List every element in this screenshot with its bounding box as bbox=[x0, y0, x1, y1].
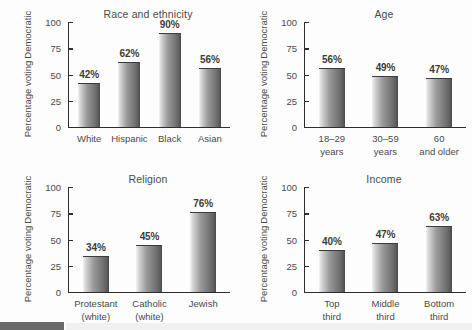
bar[interactable]: 40% bbox=[319, 250, 345, 292]
bar[interactable]: 34% bbox=[83, 256, 109, 292]
bar[interactable]: 45% bbox=[136, 245, 162, 292]
bar-fill bbox=[83, 256, 109, 292]
scan-artifact-light-band bbox=[66, 323, 472, 330]
bar-series: 56%18–29years49%30–59years47%60and older bbox=[305, 22, 466, 127]
bar-fill bbox=[319, 250, 345, 292]
chart-panel-race-and-ethnicity: Race and ethnicity Percentage voting Dem… bbox=[0, 0, 236, 165]
y-axis-label-line1: Percentage voting bbox=[258, 61, 269, 138]
y-axis-tick-label: 100 bbox=[281, 17, 297, 28]
x-axis-category-line: Jewish bbox=[189, 298, 218, 311]
y-axis-tick-label: 100 bbox=[281, 182, 297, 193]
bar[interactable]: 42% bbox=[78, 83, 100, 127]
y-axis-tick-mark bbox=[68, 292, 73, 293]
bar-fill bbox=[136, 245, 162, 292]
bar[interactable]: 49% bbox=[372, 76, 398, 127]
bar-fill bbox=[372, 243, 398, 292]
y-axis-label-line1: Percentage voting bbox=[22, 61, 33, 138]
y-axis-tick-label: 0 bbox=[292, 287, 297, 298]
x-axis-category-line: Top bbox=[323, 298, 341, 311]
x-axis-line bbox=[68, 292, 230, 293]
y-axis-tick-label: 75 bbox=[50, 43, 61, 54]
y-axis-tick-label: 50 bbox=[286, 69, 297, 80]
bar[interactable]: 76% bbox=[190, 212, 216, 292]
plot-area: 0255075100 40%Topthird47%Middlethird63%B… bbox=[304, 187, 466, 292]
x-axis-line bbox=[304, 127, 466, 128]
figure-canvas: Race and ethnicity Percentage voting Dem… bbox=[0, 0, 472, 330]
bar-value-label: 56% bbox=[322, 54, 342, 65]
bar-slot: 42%White bbox=[69, 22, 109, 127]
bar-slot: 62%Hispanic bbox=[109, 22, 149, 127]
y-axis-label: Percentage voting Democratic bbox=[14, 18, 40, 130]
x-axis-category-label: Black bbox=[158, 133, 181, 146]
x-axis-category-line: third bbox=[424, 311, 454, 324]
y-axis-tick-label: 0 bbox=[56, 287, 61, 298]
bar[interactable]: 90% bbox=[159, 33, 181, 128]
chart-panel-age: Age Percentage voting Democratic 0255075… bbox=[236, 0, 472, 165]
x-axis-category-label: Jewish bbox=[189, 298, 218, 311]
y-axis-label: Percentage voting Democratic bbox=[250, 183, 276, 295]
x-axis-category-line: Asian bbox=[198, 133, 222, 146]
y-axis-tick-label: 25 bbox=[50, 95, 61, 106]
y-axis-tick-label: 100 bbox=[45, 182, 61, 193]
x-axis-category-label: White bbox=[77, 133, 101, 146]
x-axis-category-line: Protestant bbox=[74, 298, 117, 311]
bar[interactable]: 56% bbox=[319, 68, 345, 127]
y-axis-label-line2: Democratic bbox=[22, 176, 33, 224]
plot-area: 0255075100 34%Protestant(white)45%Cathol… bbox=[68, 187, 230, 292]
y-axis-tick-label: 25 bbox=[286, 95, 297, 106]
bar-slot: 45%Catholic(white) bbox=[123, 187, 177, 292]
bar-series: 40%Topthird47%Middlethird63%Bottomthird bbox=[305, 187, 466, 292]
x-axis-category-line: Hispanic bbox=[111, 133, 147, 146]
x-axis-category-label: Bottomthird bbox=[424, 298, 454, 323]
x-axis-category-line: 60 bbox=[419, 133, 459, 146]
y-axis-tick-label: 0 bbox=[292, 122, 297, 133]
y-axis-tick-mark bbox=[304, 292, 309, 293]
bar-slot: 40%Topthird bbox=[305, 187, 359, 292]
bar-slot: 56%Asian bbox=[190, 22, 230, 127]
y-axis-tick-label: 50 bbox=[50, 69, 61, 80]
x-axis-category-line: years bbox=[372, 146, 398, 159]
bar-fill bbox=[78, 83, 100, 127]
x-axis-category-line: years bbox=[319, 146, 345, 159]
y-axis-label: Percentage voting Democratic bbox=[250, 18, 276, 130]
y-axis-tick-label: 0 bbox=[56, 122, 61, 133]
bar-slot: 56%18–29years bbox=[305, 22, 359, 127]
bar-value-label: 49% bbox=[376, 62, 396, 73]
x-axis-category-label: Asian bbox=[198, 133, 222, 146]
bar-value-label: 42% bbox=[79, 69, 99, 80]
bar-value-label: 90% bbox=[160, 19, 180, 30]
bar-fill bbox=[426, 226, 452, 292]
y-axis-tick-label: 50 bbox=[50, 234, 61, 245]
bar[interactable]: 47% bbox=[372, 243, 398, 292]
y-axis-tick-label: 75 bbox=[286, 43, 297, 54]
x-axis-category-label: Middlethird bbox=[371, 298, 399, 323]
bar[interactable]: 47% bbox=[426, 78, 452, 127]
x-axis-category-line: third bbox=[371, 311, 399, 324]
y-axis-tick-label: 25 bbox=[50, 260, 61, 271]
y-axis-label-line1: Percentage voting bbox=[22, 226, 33, 303]
chart-panel-income: Income Percentage voting Democratic 0255… bbox=[236, 165, 472, 330]
bar-value-label: 62% bbox=[120, 48, 140, 59]
bar[interactable]: 63% bbox=[426, 226, 452, 292]
bar-series: 34%Protestant(white)45%Catholic(white)76… bbox=[69, 187, 230, 292]
x-axis-category-label: Topthird bbox=[323, 298, 341, 323]
bar-value-label: 40% bbox=[322, 236, 342, 247]
y-axis-label-line2: Democratic bbox=[22, 11, 33, 59]
bar-slot: 76%Jewish bbox=[176, 187, 230, 292]
bar[interactable]: 56% bbox=[199, 68, 221, 127]
bar-slot: 49%30–59years bbox=[359, 22, 413, 127]
y-axis-label-line1: Percentage voting bbox=[258, 226, 269, 303]
y-axis-label-line2: Democratic bbox=[258, 176, 269, 224]
x-axis-category-label: 60and older bbox=[419, 133, 459, 158]
chart-title: Income bbox=[296, 173, 472, 185]
y-axis-label-line2: Democratic bbox=[258, 11, 269, 59]
bar-slot: 63%Bottomthird bbox=[412, 187, 466, 292]
x-axis-category-label: Catholic(white) bbox=[132, 298, 166, 323]
x-axis-category-label: Protestant(white) bbox=[74, 298, 117, 323]
bar[interactable]: 62% bbox=[118, 62, 140, 127]
x-axis-line bbox=[304, 292, 466, 293]
bar-fill bbox=[319, 68, 345, 127]
x-axis-line bbox=[68, 127, 230, 128]
plot-area: 0255075100 42%White62%Hispanic90%Black56… bbox=[68, 22, 230, 127]
x-axis-category-line: (white) bbox=[74, 311, 117, 324]
